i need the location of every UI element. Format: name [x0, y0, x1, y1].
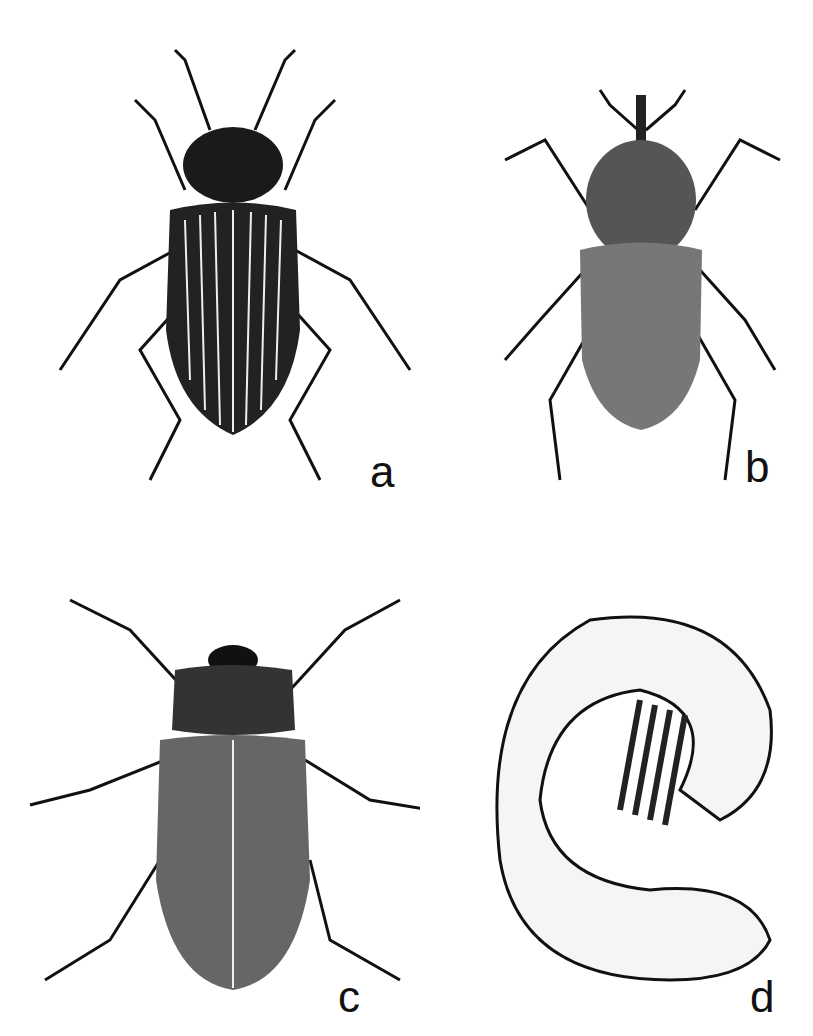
panel-label-b: b	[745, 445, 769, 489]
grub-d-illustration	[420, 560, 813, 1036]
panel-a: a	[0, 0, 420, 500]
panel-label-a: a	[370, 450, 394, 494]
panel-label-d: d	[750, 975, 774, 1019]
panel-d: d	[420, 560, 813, 1036]
panel-label-c: c	[338, 975, 360, 1019]
beetle-a-illustration	[0, 0, 420, 500]
weevil-b-illustration	[420, 0, 813, 500]
beetle-c-illustration	[0, 560, 420, 1036]
panel-b: b	[420, 0, 813, 500]
panel-c: c	[0, 560, 420, 1036]
